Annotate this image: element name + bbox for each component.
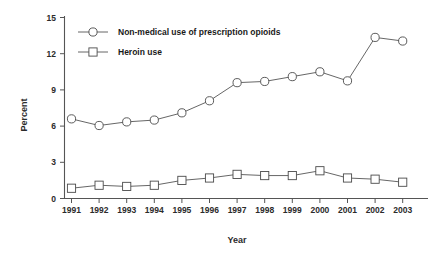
legend-marker-circle-icon [89, 28, 97, 36]
line-chart: 0 3 6 9 12 15 1991 1992 1993 1994 1995 1… [0, 0, 439, 257]
series-layer [67, 33, 406, 192]
data-point-square [205, 174, 213, 182]
data-point-circle [150, 116, 158, 124]
data-point-circle [123, 118, 131, 126]
x-tick-label-1992: 1992 [90, 205, 109, 215]
x-tick-label-2000: 2000 [310, 205, 329, 215]
y-tick-label-6: 6 [51, 121, 56, 131]
data-point-square [261, 171, 269, 179]
data-point-square [67, 184, 75, 192]
chart-axes [65, 16, 429, 199]
chart-legend: Non-medical use of prescription opioids … [78, 27, 281, 57]
data-point-circle [178, 109, 186, 117]
x-tick-label-1996: 1996 [200, 205, 219, 215]
data-point-square [316, 167, 324, 175]
data-point-square [399, 178, 407, 186]
x-tick-label-1995: 1995 [172, 205, 191, 215]
data-point-circle [399, 37, 407, 45]
data-point-square [288, 171, 296, 179]
y-tick-label-3: 3 [51, 157, 56, 167]
legend-marker-square-icon [89, 48, 97, 56]
x-tick-label-2003: 2003 [393, 205, 412, 215]
data-point-circle [371, 33, 379, 41]
y-axis-ticks [60, 18, 65, 199]
data-point-circle [205, 97, 213, 105]
x-tick-label-1999: 1999 [283, 205, 302, 215]
x-tick-label-1998: 1998 [255, 205, 274, 215]
x-tick-label-2001: 2001 [338, 205, 357, 215]
data-point-square [371, 175, 379, 183]
data-point-circle [343, 77, 351, 85]
legend-label-opioids: Non-medical use of prescription opioids [118, 27, 281, 37]
data-point-square [178, 176, 186, 184]
x-tick-label-1993: 1993 [117, 205, 136, 215]
y-tick-label-15: 15 [47, 13, 57, 23]
data-point-circle [67, 115, 75, 123]
x-axis-title: Year [227, 235, 247, 245]
data-point-square [150, 181, 158, 189]
y-tick-label-12: 12 [47, 49, 57, 59]
x-axis-ticks [72, 199, 403, 204]
data-point-circle [95, 121, 103, 129]
x-tick-label-1997: 1997 [228, 205, 247, 215]
chart-figure: 0 3 6 9 12 15 1991 1992 1993 1994 1995 1… [0, 0, 439, 257]
data-point-circle [288, 73, 296, 81]
data-point-circle [261, 77, 269, 85]
data-point-square [233, 170, 241, 178]
x-tick-label-2002: 2002 [366, 205, 385, 215]
data-point-square [95, 181, 103, 189]
data-point-square [123, 182, 131, 190]
legend-label-heroin: Heroin use [118, 47, 162, 57]
series-heroin [67, 167, 406, 193]
x-tick-label-1991: 1991 [62, 205, 81, 215]
data-point-circle [233, 79, 241, 87]
y-axis-title: Percent [19, 98, 29, 131]
data-point-circle [316, 68, 324, 76]
y-tick-label-9: 9 [51, 85, 56, 95]
y-tick-label-0: 0 [51, 194, 56, 204]
x-tick-label-1994: 1994 [145, 205, 164, 215]
data-point-square [343, 174, 351, 182]
